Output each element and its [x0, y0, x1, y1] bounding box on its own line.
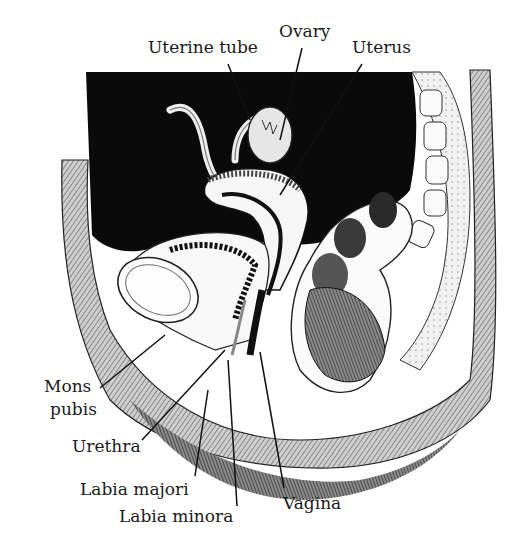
label-labia-majori: Labia majori [80, 480, 189, 499]
label-mons-pubis-line1: Mons [44, 377, 91, 396]
label-uterine-tube: Uterine tube [148, 38, 258, 57]
label-mons-pubis-line2: pubis [50, 400, 97, 419]
label-ovary: Ovary [279, 22, 330, 41]
label-urethra: Urethra [72, 437, 141, 456]
anatomy-illustration [0, 0, 524, 557]
leader-vagina [260, 352, 284, 488]
label-uterus: Uterus [352, 38, 411, 57]
label-labia-minora: Labia minora [119, 507, 233, 526]
label-vagina: Vagina [283, 494, 341, 513]
